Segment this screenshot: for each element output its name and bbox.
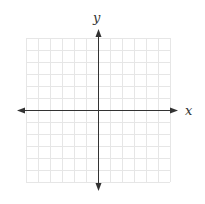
x-axis-label: x <box>185 103 193 118</box>
x-axis-arrow-right-icon <box>170 108 178 114</box>
coordinate-plane: x y <box>0 0 205 204</box>
y-axis-label: y <box>92 10 101 25</box>
axes <box>17 29 178 191</box>
x-axis-arrow-left-icon <box>17 108 25 114</box>
y-axis-arrow-down-icon <box>96 183 102 191</box>
y-axis-arrow-up-icon <box>96 29 102 37</box>
